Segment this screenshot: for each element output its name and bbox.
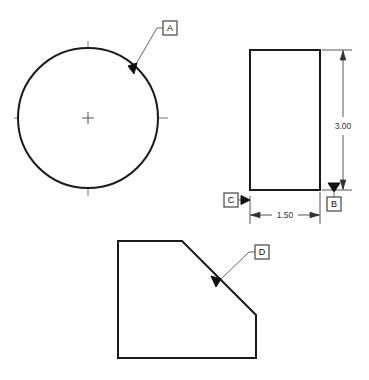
technical-drawing-canvas: A 3.00 B	[0, 0, 369, 380]
datum-b-triangle-icon	[328, 183, 340, 192]
rectangular-profile-view[interactable]	[250, 50, 320, 190]
dim-height-arrow-bottom-icon	[340, 180, 346, 189]
datum-d-label: D	[259, 247, 266, 257]
dim-width-arrow-right-icon	[310, 212, 319, 218]
chamfered-polygon-outline[interactable]	[118, 241, 256, 358]
datum-c-triangle-icon	[241, 196, 250, 205]
dim-width-arrow-left-icon	[251, 212, 260, 218]
drawing-svg: A 3.00 B	[0, 0, 369, 380]
dim-height-value: 3.00	[335, 121, 352, 131]
datum-a-label: A	[167, 23, 173, 33]
datum-c-label: C	[228, 195, 235, 205]
dim-height-arrow-top-icon	[340, 51, 346, 60]
chamfered-profile-view[interactable]	[118, 241, 256, 358]
datum-d-leader-line	[220, 252, 249, 280]
datum-b-group[interactable]: B	[327, 183, 341, 211]
dim-width-value: 1.50	[277, 210, 294, 220]
datum-b-label: B	[331, 199, 337, 209]
dimension-height-group[interactable]: 3.00	[322, 50, 352, 190]
rectangle-outline[interactable]	[250, 50, 320, 190]
datum-c-group[interactable]: C	[224, 193, 250, 207]
datum-d-group[interactable]: D	[211, 245, 269, 287]
dimension-width-group[interactable]: 1.50	[250, 192, 320, 224]
datum-a-group[interactable]: A	[128, 21, 177, 74]
datum-a-leader-line	[136, 28, 157, 64]
circular-profile-view[interactable]	[14, 41, 168, 196]
